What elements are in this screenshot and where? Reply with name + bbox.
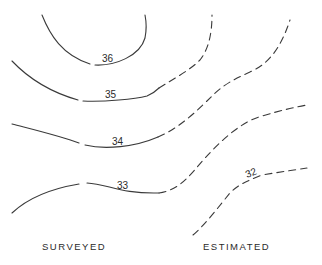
contour-36-label: 36	[102, 53, 114, 64]
contour-diagram: 36 35 34 33 32	[0, 0, 322, 265]
contour-35-line	[83, 88, 159, 101]
contour-33-line	[12, 184, 79, 213]
contour-35-dashed	[159, 15, 212, 88]
surveyed-label: SURVEYED	[42, 241, 106, 252]
contour-33-label: 33	[117, 180, 129, 191]
contour-35-line	[12, 61, 78, 100]
contour-33-dashed	[159, 105, 307, 193]
estimated-label: ESTIMATED	[203, 241, 270, 252]
contour-35-label: 35	[105, 89, 117, 100]
contour-34-dashed	[158, 20, 290, 137]
contour-34-line	[12, 124, 79, 143]
contour-34-label: 34	[112, 136, 124, 147]
contour-36-line	[42, 15, 90, 64]
